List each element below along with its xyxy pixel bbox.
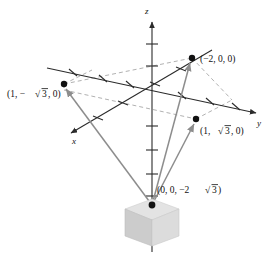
guide-line-right-lower xyxy=(196,100,232,119)
label-suffix-1-sqrt3: , 0) xyxy=(231,126,244,137)
y-axis-tick-2 xyxy=(206,98,214,105)
dot-point-1-negsqrt3-0 xyxy=(61,81,67,87)
label-point-origin-cube: (0, 0, −2 √ 3 ) xyxy=(157,185,221,196)
radical-sign-origin-cube: √ xyxy=(205,185,211,195)
guide-line-right xyxy=(192,58,232,100)
label-suffix-1-negsqrt3: , 0) xyxy=(48,89,61,100)
label-suffix-origin-cube: ) xyxy=(218,185,221,196)
label-point-1-negsqrt3-0: (1, − √ 3 , 0) xyxy=(7,89,61,100)
dashed-guide-lines xyxy=(64,58,232,119)
label-prefix-origin-cube: (0, 0, −2 xyxy=(157,185,190,196)
vector-to-1-negsqrt3-0 xyxy=(66,89,152,205)
vector-figure: z y x (−2, 0, 0) (1, − √ 3 , 0) (1, √ 3 … xyxy=(0,0,274,257)
vector-to-neg2-0-0 xyxy=(152,63,190,205)
x-axis-label: x xyxy=(71,136,76,146)
dot-point-1-sqrt3-0 xyxy=(193,116,199,122)
radical-sign-1-negsqrt3: √ xyxy=(35,89,41,99)
y-axis-label: y xyxy=(256,118,261,128)
radical-sign-1-sqrt3: √ xyxy=(218,126,224,136)
label-point-neg2-0-0: (−2, 0, 0) xyxy=(200,54,235,65)
x-axis xyxy=(71,50,212,133)
x-axis-line xyxy=(71,50,212,133)
guide-line-upper xyxy=(64,58,192,84)
label-prefix-1-sqrt3: (1, xyxy=(200,126,210,137)
z-axis-label: z xyxy=(144,6,149,16)
three-d-axes-diagram: z y x (−2, 0, 0) (1, − √ 3 , 0) (1, √ 3 … xyxy=(0,0,274,257)
label-point-1-sqrt3-0: (1, √ 3 , 0) xyxy=(200,126,244,137)
dot-point-neg2-0-0 xyxy=(189,55,195,61)
label-prefix-1-negsqrt3: (1, − xyxy=(7,89,25,100)
radicand-origin-cube: 3 xyxy=(212,185,217,195)
radicand-1-negsqrt3: 3 xyxy=(42,89,47,99)
radicand-1-sqrt3: 3 xyxy=(225,126,230,136)
y-axis-tick-neg1 xyxy=(126,81,134,88)
dot-point-origin-cube xyxy=(149,202,156,209)
y-axis-tick-neg2 xyxy=(99,75,107,82)
